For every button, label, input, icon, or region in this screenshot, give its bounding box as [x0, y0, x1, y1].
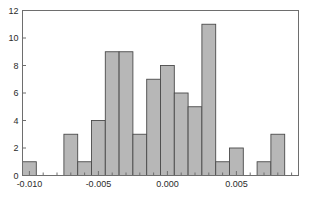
x-axis-tick-label: 0.000: [156, 179, 179, 189]
y-axis-tick-label: 4: [13, 116, 18, 126]
histogram-bar: [64, 134, 78, 175]
y-axis-tick-label: 12: [8, 6, 18, 16]
histogram-plot: 024681012-0.010-0.0050.0000.005: [0, 0, 310, 199]
histogram-bar: [174, 93, 188, 176]
histogram-bar: [271, 134, 285, 175]
histogram-figure: 024681012-0.010-0.0050.0000.005: [0, 0, 310, 199]
histogram-bar: [188, 107, 202, 176]
x-axis-tick-label: 0.005: [225, 179, 248, 189]
x-axis-tick-label: -0.010: [17, 179, 43, 189]
y-axis-tick-label: 6: [13, 88, 18, 98]
histogram-bar: [92, 121, 106, 176]
bars-layer: [23, 24, 285, 175]
histogram-bar: [161, 66, 175, 176]
histogram-bar: [147, 79, 161, 175]
histogram-bar: [133, 134, 147, 175]
histogram-bar: [202, 24, 216, 175]
histogram-bar: [105, 52, 119, 176]
histogram-bar: [119, 52, 133, 176]
x-axis-tick-label: -0.005: [86, 179, 112, 189]
y-axis-tick-label: 2: [13, 143, 18, 153]
y-axis-tick-label: 10: [8, 33, 18, 43]
y-axis-tick-label: 8: [13, 61, 18, 71]
